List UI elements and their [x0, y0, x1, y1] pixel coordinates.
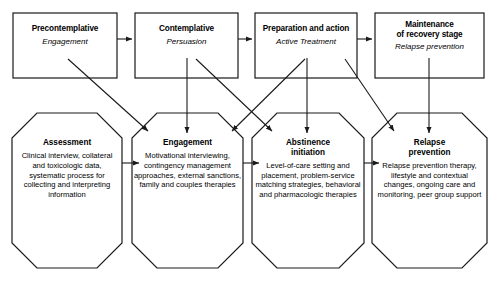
stage-title: Preparation and action: [253, 24, 359, 34]
stage-subtitle: Active Treatment: [253, 37, 359, 46]
stage-subtitle: Persuasion: [135, 37, 238, 46]
stage-label-precontemplative: Precontemplative Engagement: [13, 24, 117, 46]
stage-label-maintenance: Maintenance of recovery stage Relapse pr…: [375, 20, 484, 52]
intervention-title: Abstinence initiation: [254, 138, 362, 158]
intervention-detail: Motivational interviewing, contingency m…: [133, 151, 242, 190]
intervention-title: Relapse prevention: [375, 138, 484, 158]
stage-label-preparation: Preparation and action Active Treatment: [253, 24, 359, 46]
stage-title: Maintenance of recovery stage: [375, 20, 484, 39]
diagram-canvas: Precontemplative Engagement Contemplativ…: [0, 0, 500, 284]
stage-label-contemplative: Contemplative Persuasion: [135, 24, 238, 46]
intervention-detail: Level-of-care setting and placement, pro…: [254, 161, 362, 200]
stage-title: Precontemplative: [13, 24, 117, 34]
intervention-label-assessment: Assessment Clinical interview, collatera…: [15, 138, 119, 200]
intervention-octagon-engagement: [132, 113, 243, 268]
intervention-detail: Clinical interview, collateral and toxic…: [15, 151, 119, 200]
stage-subtitle: Engagement: [13, 37, 117, 46]
intervention-label-relapse: Relapse prevention Relapse prevention th…: [375, 138, 484, 200]
stage-title: Contemplative: [135, 24, 238, 34]
stage-subtitle: Relapse prevention: [375, 42, 484, 51]
intervention-label-abstinence: Abstinence initiation Level-of-care sett…: [254, 138, 362, 200]
intervention-title: Assessment: [15, 138, 119, 148]
intervention-detail: Relapse prevention therapy, lifestyle an…: [375, 161, 484, 200]
intervention-label-engagement: Engagement Motivational interviewing, co…: [133, 138, 242, 190]
intervention-title: Engagement: [133, 138, 242, 148]
